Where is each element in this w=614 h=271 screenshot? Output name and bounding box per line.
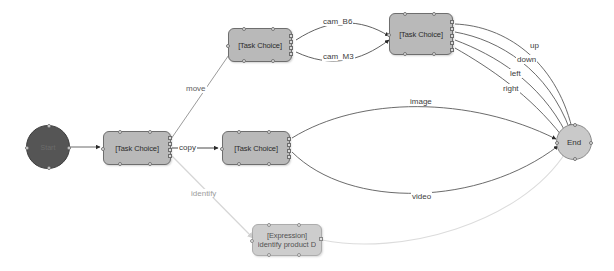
port-top-left[interactable] [118,130,122,134]
edge-label-cam-m3: cam_M3 [322,52,355,61]
edge-label-video: video [411,192,432,201]
edge-label-image: image [409,97,433,106]
output-notch-4[interactable] [450,41,454,45]
edge-task1-to-task2 [171,49,233,139]
node-task-choice-3-label: [Task Choice] [234,144,278,153]
port-top-right[interactable] [271,27,275,31]
port-bottom-left[interactable] [242,59,246,63]
port-input-left[interactable] [101,147,105,151]
edge-label-left: left [509,69,522,78]
port-left[interactable] [25,146,29,150]
port-bottom-left[interactable] [403,52,407,56]
node-task-choice-2-label: [Task Choice] [238,41,282,50]
port-input-left[interactable] [226,44,230,48]
output-notch-3[interactable] [168,148,172,152]
output-notch-4[interactable] [287,155,291,159]
port-left[interactable] [555,141,559,145]
output-notch-1[interactable] [319,237,323,241]
edge-label-cam-b6: cam_B6 [322,17,353,26]
port-bottom-left[interactable] [118,162,122,166]
edge-task3-to-end-image [292,107,556,139]
output-notch-2[interactable] [168,142,172,146]
edge-label-up: up [529,41,540,50]
output-notch-1[interactable] [287,137,291,141]
output-notch-3[interactable] [287,149,291,153]
port-bottom-left[interactable] [237,162,241,166]
node-end[interactable]: End [556,124,592,160]
output-notch-3[interactable] [289,46,293,50]
node-task-choice-1-label: [Task Choice] [115,144,159,153]
port-top-right[interactable] [432,12,436,16]
node-task-choice-4[interactable]: [Task Choice] [389,13,453,55]
port-right[interactable] [67,146,71,150]
node-task-choice-3[interactable]: [Task Choice] [222,131,290,165]
port-top-right[interactable] [148,130,152,134]
output-notch-3[interactable] [450,34,454,38]
edge-label-move: move [185,84,207,93]
output-notch-5[interactable] [450,48,454,52]
port-input-left[interactable] [387,33,391,37]
edge-expression-to-end [322,152,566,244]
port-top-right[interactable] [297,223,301,227]
node-task-choice-4-label: [Task Choice] [399,30,443,39]
edge-task3-to-end-video [292,146,558,193]
node-expression[interactable]: [Expression] identify product D [252,224,322,256]
port-top-left[interactable] [237,130,241,134]
output-notch-4[interactable] [289,52,293,56]
output-notch-2[interactable] [289,40,293,44]
output-notch-1[interactable] [168,136,172,140]
port-input-left[interactable] [250,239,254,243]
port-right[interactable] [589,141,593,145]
node-task-choice-1[interactable]: [Task Choice] [103,131,171,165]
port-bottom-right[interactable] [148,162,152,166]
port-bottom[interactable] [47,166,51,170]
port-top-left[interactable] [403,12,407,16]
port-bottom-right[interactable] [271,59,275,63]
output-notch-2[interactable] [450,27,454,31]
port-top[interactable] [47,124,51,128]
port-input-left[interactable] [220,147,224,151]
port-top-left[interactable] [267,223,271,227]
port-bottom-right[interactable] [267,162,271,166]
node-start[interactable]: Start [26,125,70,169]
edge-label-identify: identify [190,189,217,198]
output-notch-1[interactable] [289,34,293,38]
port-top[interactable] [573,123,577,127]
output-notch-1[interactable] [450,20,454,24]
diagram-canvas[interactable]: Start [Task Choice] [Task Choice] [Task … [0,0,614,271]
edge-label-down: down [516,55,537,64]
output-notch-2[interactable] [287,143,291,147]
edge-label-right: right [502,84,520,93]
port-top-right[interactable] [267,130,271,134]
port-bottom-left[interactable] [267,253,271,257]
port-top-left[interactable] [242,27,246,31]
port-bottom-right[interactable] [297,253,301,257]
node-expression-label: [Expression] [267,231,307,240]
port-bottom-right[interactable] [432,52,436,56]
node-task-choice-2[interactable]: [Task Choice] [228,28,292,62]
port-bottom[interactable] [573,157,577,161]
node-end-label: End [567,138,581,147]
node-start-label: Start [41,144,56,151]
node-expression-sublabel: identify product D [258,240,316,249]
output-notch-4[interactable] [168,154,172,158]
edge-label-copy: copy [178,143,197,152]
